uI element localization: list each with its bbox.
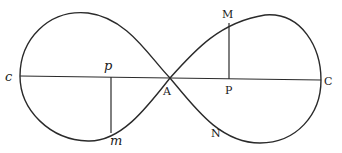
label-P: P <box>225 84 233 97</box>
label-M: M <box>222 8 233 21</box>
lemniscate-figure: c p m A M P N C <box>0 0 342 153</box>
label-p: p <box>104 58 113 73</box>
diagram-canvas: c p m A M P N C <box>0 0 342 153</box>
label-m: m <box>110 133 122 148</box>
label-c: c <box>5 69 13 84</box>
label-N: N <box>211 127 221 140</box>
label-C: C <box>324 75 332 88</box>
label-A: A <box>162 85 172 98</box>
